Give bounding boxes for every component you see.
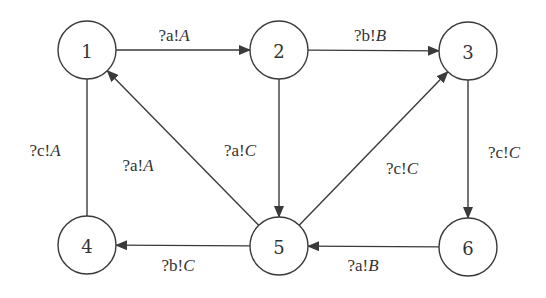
- state-label: 1: [81, 41, 92, 62]
- edge-label-2-to-5: ?a!C: [224, 141, 257, 160]
- edge-label-input: ?b!: [161, 256, 183, 275]
- edge-label-output: B: [368, 256, 379, 275]
- edge-label-5-to-3: ?c!C: [386, 159, 419, 178]
- edge-label-output: A: [142, 156, 154, 175]
- state-label: 6: [462, 238, 473, 259]
- edge-label-2-to-3: ?b!B: [354, 26, 387, 45]
- edge-label-6-to-5: ?a!B: [347, 256, 379, 275]
- state-node-5: 5: [250, 217, 308, 275]
- edge-label-output: B: [376, 26, 387, 45]
- state-node-3: 3: [439, 22, 497, 80]
- state-node-4: 4: [58, 216, 116, 274]
- state-node-1: 1: [58, 21, 116, 79]
- edge-label-input: ?c!: [488, 143, 509, 162]
- edge-label-input: ?b!: [354, 26, 376, 45]
- state-label: 5: [273, 237, 284, 258]
- state-diagram: 123456 ?a!A?b!B?c!A?a!A?a!C?c!C?c!C?b!C?…: [0, 0, 546, 298]
- edge-label-input: ?c!: [29, 141, 50, 160]
- edge-label-3-to-6: ?c!C: [488, 143, 521, 162]
- edge-label-output: C: [509, 143, 521, 162]
- edge-label-output: C: [407, 159, 419, 178]
- state-label: 2: [273, 41, 284, 62]
- edge-5-to-3: [299, 72, 448, 225]
- edge-label-output: A: [49, 141, 61, 160]
- edge-label-4-to-1: ?c!A: [29, 141, 61, 160]
- edge-2-to-3: [308, 50, 439, 51]
- nodes-layer: 123456: [58, 21, 497, 276]
- edge-label-5-to-4: ?b!C: [161, 256, 195, 275]
- state-node-2: 2: [250, 21, 308, 79]
- edge-6-to-5: [308, 246, 439, 247]
- edge-label-input: ?a!: [224, 141, 245, 160]
- edge-label-output: C: [245, 141, 257, 160]
- edge-label-input: ?a!: [158, 26, 179, 45]
- edge-label-input: ?c!: [386, 159, 407, 178]
- edge-label-input: ?a!: [122, 156, 143, 175]
- edge-label-output: C: [183, 256, 195, 275]
- edge-label-1-to-2: ?a!A: [158, 26, 190, 45]
- edge-label-input: ?a!: [347, 256, 368, 275]
- state-node-6: 6: [439, 218, 497, 276]
- edge-5-to-4: [116, 245, 250, 246]
- edge-label-5-to-1: ?a!A: [122, 156, 154, 175]
- edge-label-output: A: [178, 26, 190, 45]
- state-label: 3: [462, 42, 473, 63]
- state-label: 4: [81, 236, 92, 257]
